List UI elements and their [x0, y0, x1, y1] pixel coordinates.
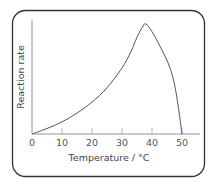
chart: 01020304050 Reaction rate Temperature / … [0, 0, 216, 184]
series-line-reaction-rate [32, 24, 182, 134]
y-axis-label: Reaction rate [15, 45, 26, 109]
x-tick-label: 20 [86, 137, 98, 148]
x-tick-label: 30 [116, 137, 128, 148]
x-axis-label: Temperature / °C [68, 152, 150, 163]
x-tick-label: 10 [56, 137, 68, 148]
x-tick-label: 0 [29, 137, 35, 148]
x-tick-label: 40 [146, 137, 158, 148]
x-tick-label: 50 [176, 137, 188, 148]
